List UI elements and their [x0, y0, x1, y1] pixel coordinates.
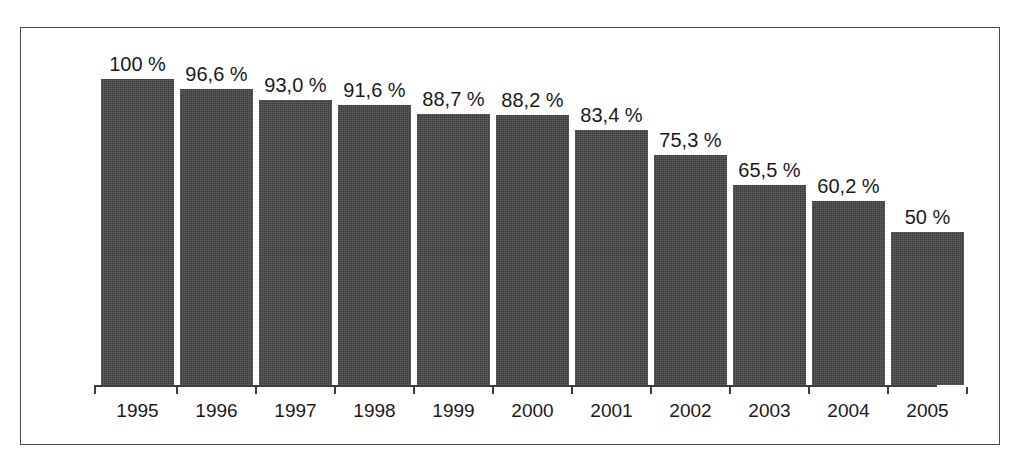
bar-2000: [496, 115, 569, 385]
axis-tick-6: [571, 387, 573, 394]
axis-tick-4: [413, 387, 415, 394]
axis-tick-8: [729, 387, 731, 394]
bar-value-label-2002: 75,3 %: [640, 130, 741, 150]
axis-tick-5: [492, 387, 494, 394]
bar-2001: [575, 130, 648, 385]
axis-tick-10: [887, 387, 889, 394]
bar-value-label-2004: 60,2 %: [798, 176, 899, 196]
bar-1999: [417, 114, 490, 385]
cut-off-caption-line: [0, 0, 1019, 14]
bar-1998: [338, 105, 411, 385]
bar-1995: [101, 79, 174, 385]
axis-tick-9: [808, 387, 810, 394]
bar-1997: [259, 100, 332, 385]
bar-1996: [180, 89, 253, 385]
chart-frame: 100 %96,6 %93,0 %91,6 %88,7 %88,2 %83,4 …: [20, 27, 1000, 445]
axis-tick-2: [255, 387, 257, 394]
bar-2003: [733, 185, 806, 385]
bar-value-label-2001: 83,4 %: [561, 105, 662, 125]
bar-2004: [812, 201, 885, 385]
bar-value-label-2005: 50 %: [877, 207, 978, 227]
axis-tick-7: [650, 387, 652, 394]
axis-tick-3: [334, 387, 336, 394]
category-label-2005: 2005: [877, 400, 978, 422]
axis-tick-11: [966, 387, 968, 394]
bar-2005: [891, 232, 964, 385]
category-axis-line: [94, 385, 937, 387]
bar-2002: [654, 155, 727, 385]
plot-area: 100 %96,6 %93,0 %91,6 %88,7 %88,2 %83,4 …: [21, 28, 999, 444]
axis-tick-1: [176, 387, 178, 394]
axis-tick-0: [94, 387, 96, 394]
